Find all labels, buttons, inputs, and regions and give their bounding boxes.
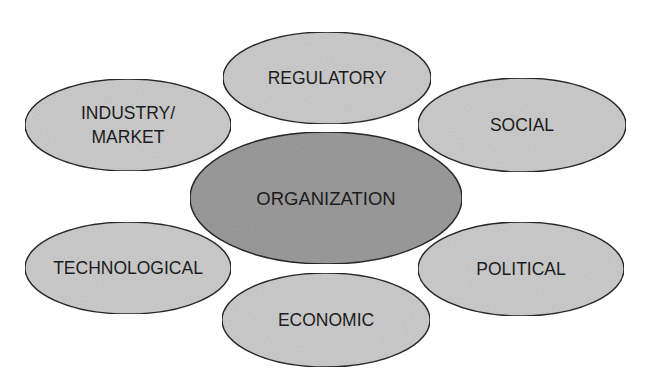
node-organization: ORGANIZATION <box>190 132 462 264</box>
label-technological: TECHNOLOGICAL <box>53 258 203 278</box>
label-industry-market-line-1: INDUSTRY/ <box>81 103 175 123</box>
label-regulatory: REGULATORY <box>268 68 387 88</box>
node-industry-market: INDUSTRY/MARKET <box>25 79 231 171</box>
node-social: SOCIAL <box>418 78 626 172</box>
node-technological: TECHNOLOGICAL <box>25 222 231 314</box>
environment-diagram: REGULATORYINDUSTRY/MARKETSOCIALTECHNOLOG… <box>0 0 649 381</box>
label-social: SOCIAL <box>490 115 554 135</box>
label-political: POLITICAL <box>476 259 566 279</box>
label-organization: ORGANIZATION <box>256 188 395 209</box>
node-economic: ECONOMIC <box>222 273 430 367</box>
node-regulatory: REGULATORY <box>223 32 431 124</box>
center-node-group: ORGANIZATION <box>190 132 462 264</box>
label-economic: ECONOMIC <box>278 310 374 330</box>
ellipse-industry-market <box>25 79 231 171</box>
label-industry-market-line-2: MARKET <box>92 127 165 147</box>
node-political: POLITICAL <box>418 222 624 316</box>
